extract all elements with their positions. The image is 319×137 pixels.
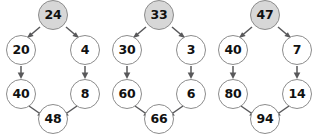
node-left2-3[interactable]: 80 (218, 79, 248, 109)
node-right1-1[interactable]: 4 (70, 35, 100, 65)
node-right1-2[interactable]: 3 (176, 35, 206, 65)
branch-diagram-group-2: 33 30 3 60 6 66 (106, 0, 212, 137)
node-top-3[interactable]: 47 (250, 0, 280, 30)
node-left1-2[interactable]: 30 (112, 35, 142, 65)
node-left2-2[interactable]: 60 (112, 79, 142, 109)
node-right1-3[interactable]: 7 (282, 35, 312, 65)
node-left1-3[interactable]: 40 (218, 35, 248, 65)
node-bottom-2[interactable]: 66 (144, 104, 174, 134)
node-top-2[interactable]: 33 (144, 0, 174, 30)
branch-diagram-group-1: 24 20 4 40 8 48 (0, 0, 106, 137)
node-right2-2[interactable]: 6 (176, 79, 206, 109)
branch-diagram-group-3: 47 40 7 80 14 94 (212, 0, 318, 137)
node-bottom-3[interactable]: 94 (250, 104, 280, 134)
node-left2-1[interactable]: 40 (6, 79, 36, 109)
node-bottom-1[interactable]: 48 (38, 104, 68, 134)
branch-diagram-canvas: 24 20 4 40 8 48 33 30 3 60 6 66 (0, 0, 319, 137)
node-right2-3[interactable]: 14 (282, 79, 312, 109)
node-left1-1[interactable]: 20 (6, 35, 36, 65)
node-right2-1[interactable]: 8 (70, 79, 100, 109)
node-top-1[interactable]: 24 (38, 0, 68, 30)
